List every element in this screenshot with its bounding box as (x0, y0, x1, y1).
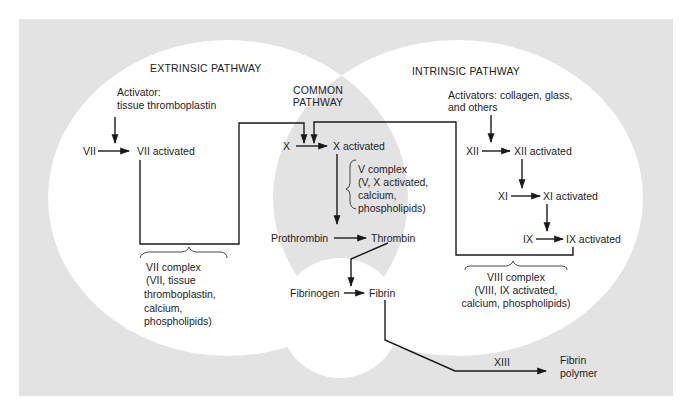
v-complex-line2: (V, X activated, (358, 176, 428, 188)
factor-xi: XI (498, 190, 508, 202)
factor-ix: IX (523, 233, 533, 245)
fibrin: Fibrin (369, 287, 395, 299)
factor-x: X (283, 140, 290, 152)
coagulation-cascade-diagram: EXTRINSIC PATHWAY Activator: tissue thro… (0, 0, 691, 414)
thrombin: Thrombin (371, 232, 416, 244)
v-complex-line4: phospholipids) (358, 202, 426, 214)
v-complex-line3: calcium, (358, 189, 397, 201)
extrinsic-activator-label: Activator: (117, 86, 161, 98)
factor-xii-activated: XII activated (514, 145, 572, 157)
factor-vii-activated: VII activated (137, 145, 195, 157)
extrinsic-activator-value: tissue thromboplastin (117, 99, 216, 111)
vii-complex-line2: (VII, tissue (146, 274, 196, 286)
extrinsic-title: EXTRINSIC PATHWAY (150, 62, 262, 74)
factor-vii: VII (83, 145, 96, 157)
vii-complex-line4: calcium, (144, 302, 183, 314)
fibrin-polymer-line2: polymer (560, 367, 598, 379)
vii-complex-line1: VII complex (146, 261, 202, 273)
intrinsic-activator-value: and others (448, 101, 498, 113)
factor-ix-activated: IX activated (566, 233, 621, 245)
v-complex-line1: V complex (358, 163, 408, 175)
fibrin-circle-base (292, 338, 388, 362)
common-title-line1: COMMON (293, 84, 343, 96)
vii-complex-line3: thromboplastin, (144, 288, 216, 300)
factor-xii: XII (466, 145, 479, 157)
viii-complex-line1: VIII complex (487, 271, 546, 283)
fibrin-polymer-line1: Fibrin (560, 354, 586, 366)
intrinsic-activator-label: Activators: collagen, glass, (448, 89, 572, 101)
prothrombin: Prothrombin (271, 232, 328, 244)
factor-xi-activated: XI activated (543, 190, 598, 202)
common-title-line2: PATHWAY (293, 96, 344, 108)
vii-complex-line5: phospholipids) (144, 315, 212, 327)
intrinsic-title: INTRINSIC PATHWAY (412, 65, 520, 77)
viii-complex-line2: (VIII, IX activated, (475, 284, 558, 296)
fibrinogen: Fibrinogen (290, 287, 340, 299)
viii-complex-line3: calcium, phospholipids) (461, 297, 570, 309)
factor-xiii: XIII (494, 356, 510, 368)
factor-x-activated: X activated (333, 140, 385, 152)
